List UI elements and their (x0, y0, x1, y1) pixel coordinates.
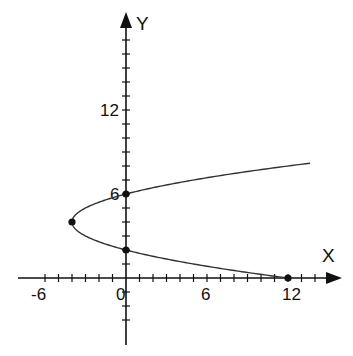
point-y-intercept (122, 190, 129, 197)
key-points (68, 190, 291, 281)
y-axis-label: Y (136, 13, 149, 34)
point-y-intercept (122, 246, 129, 253)
point-vertex (68, 218, 75, 225)
x-axis-label: X (322, 245, 335, 266)
x-tick-label: -6 (31, 285, 46, 304)
y-tick-label: 6 (110, 185, 119, 204)
x-tick-label: 0 (116, 285, 125, 304)
parabola-curve (72, 163, 310, 278)
parabola-chart: -60612612 X Y (0, 0, 353, 356)
x-axis (18, 272, 342, 284)
y-axis-arrow-icon (120, 12, 132, 28)
x-tick-label: 6 (201, 285, 210, 304)
x-tick-label: 12 (282, 285, 301, 304)
point-x-intercept (284, 274, 291, 281)
y-tick-label: 12 (100, 101, 119, 120)
tick-labels: -60612612 (31, 101, 301, 304)
x-axis-arrow-icon (326, 272, 342, 284)
